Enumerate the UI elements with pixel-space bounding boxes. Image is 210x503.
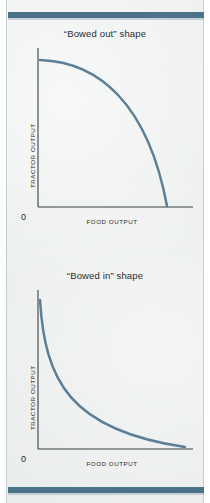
frontier-curve-concave bbox=[40, 60, 167, 206]
plot-svg-bowed-out bbox=[7, 42, 203, 242]
plot-bowed-out: TRACTOR OUTPUT FOOD OUTPUT 0 bbox=[7, 42, 203, 242]
origin-label-bowed-in: 0 bbox=[21, 454, 26, 464]
x-axis-label-bowed-out: FOOD OUTPUT bbox=[37, 218, 187, 225]
bottom-rule-shadow bbox=[8, 493, 204, 495]
figure-title-bowed-out: “Bowed out” shape bbox=[7, 28, 203, 39]
frontier-curve-convex bbox=[40, 300, 185, 447]
figure-bowed-out: “Bowed out” shape TRACTOR OUTPUT FOOD OU… bbox=[7, 24, 203, 242]
origin-label-bowed-out: 0 bbox=[21, 212, 26, 222]
plot-svg-bowed-in bbox=[7, 284, 203, 484]
x-axis-label-bowed-in: FOOD OUTPUT bbox=[37, 460, 187, 467]
figure-bowed-in: “Bowed in” shape TRACTOR OUTPUT FOOD OUT… bbox=[7, 266, 203, 484]
figure-page: “Bowed out” shape TRACTOR OUTPUT FOOD OU… bbox=[0, 0, 210, 503]
y-axis-label-bowed-out: TRACTOR OUTPUT bbox=[29, 123, 36, 188]
plot-bowed-in: TRACTOR OUTPUT FOOD OUTPUT 0 bbox=[7, 284, 203, 484]
figure-title-bowed-in: “Bowed in” shape bbox=[7, 270, 203, 281]
top-rule-shadow bbox=[8, 18, 204, 20]
y-axis-label-bowed-in: TRACTOR OUTPUT bbox=[29, 365, 36, 430]
